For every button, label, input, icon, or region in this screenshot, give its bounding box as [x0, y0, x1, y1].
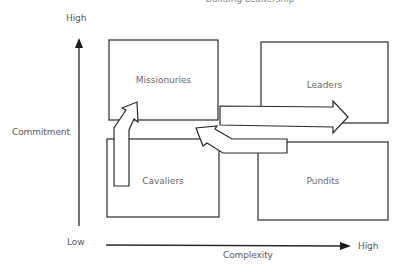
x-axis-label: Complexity: [223, 250, 273, 260]
y-axis-label: Commitment: [12, 127, 70, 137]
quadrant-label-leaders: Leaders: [261, 80, 388, 90]
y-axis-arrow: [75, 38, 83, 226]
y-axis-high-label: High: [66, 13, 86, 23]
quadrant-label-pundits: Pundits: [258, 176, 388, 186]
quadrant-label-missionaries: Missionuries: [109, 75, 218, 85]
matrix-graphic: [0, 0, 400, 279]
quadrant-label-cavaliers: Cavaliers: [107, 176, 219, 186]
y-axis-low-label: Low: [67, 237, 84, 247]
x-axis-arrow: [106, 242, 351, 250]
commitment-complexity-matrix: Building Leadership High Commitment Low …: [0, 0, 400, 279]
x-axis-high-label: High: [358, 241, 378, 251]
